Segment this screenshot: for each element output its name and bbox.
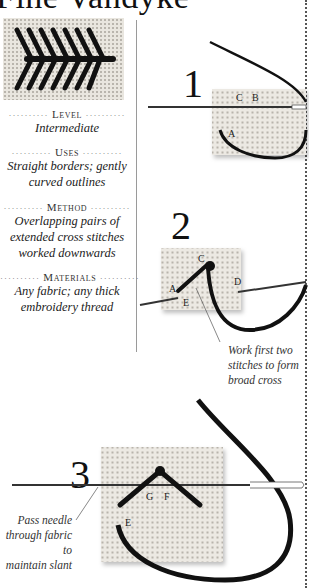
svg-text:E: E bbox=[183, 297, 189, 308]
step-2-caption-line2: stitches to form bbox=[228, 358, 299, 373]
svg-text:G: G bbox=[146, 491, 153, 502]
step-3-caption: Pass needle through fabric to maintain s… bbox=[0, 513, 72, 573]
step-3-caption-line3: maintain slant bbox=[0, 558, 72, 573]
svg-text:E: E bbox=[125, 517, 131, 528]
step-3-caption-line1: Pass needle bbox=[0, 513, 72, 528]
svg-text:F: F bbox=[164, 491, 170, 502]
step-1-illustration: C B A bbox=[148, 42, 306, 158]
svg-text:B: B bbox=[252, 92, 259, 103]
step-3-caption-line2: through fabric to bbox=[0, 528, 72, 558]
svg-text:A: A bbox=[228, 128, 236, 139]
step-2-caption-line1: Work first two bbox=[228, 343, 299, 358]
svg-text:A: A bbox=[169, 283, 177, 294]
step-illustrations: C B A C A E D G F E bbox=[0, 0, 309, 588]
step-2-caption: Work first two stitches to form broad cr… bbox=[228, 343, 299, 388]
svg-text:D: D bbox=[234, 276, 241, 287]
step-2-caption-line3: broad cross bbox=[228, 373, 299, 388]
step-2-illustration: C A E D bbox=[140, 248, 306, 342]
svg-text:C: C bbox=[236, 92, 243, 103]
svg-text:C: C bbox=[198, 253, 205, 264]
